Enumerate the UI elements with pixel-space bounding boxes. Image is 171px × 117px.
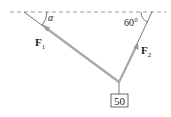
f1-label: F1 bbox=[35, 36, 46, 51]
force-diagram: 50 α 60° F1 F2 bbox=[0, 0, 171, 117]
weight-label: 50 bbox=[114, 95, 126, 107]
svg-text:F1: F1 bbox=[35, 36, 46, 51]
alpha-label: α bbox=[48, 12, 54, 23]
f2-arrow bbox=[119, 47, 136, 82]
sixty-label: 60° bbox=[124, 17, 138, 28]
sixty-arc bbox=[141, 12, 148, 22]
f2-label: F2 bbox=[141, 44, 152, 59]
f1-arrow bbox=[46, 28, 119, 82]
svg-text:F2: F2 bbox=[141, 44, 152, 59]
alpha-arc bbox=[42, 12, 47, 26]
